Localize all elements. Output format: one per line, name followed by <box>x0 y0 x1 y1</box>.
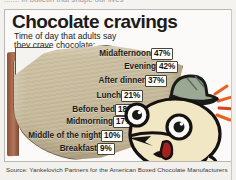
row-label: Midmorning <box>66 117 113 126</box>
clipped-top-text-strip: ....... in bulletin that shape our lives <box>0 0 236 9</box>
infographic-frame: Chocolate cravings Time of day that adul… <box>4 9 232 162</box>
table-row: Lunch 21% <box>5 91 121 103</box>
row-label: Lunch <box>96 91 121 100</box>
tongue-icon <box>161 141 172 159</box>
row-label: Breakfast <box>60 144 97 153</box>
impact-lines-icon <box>215 86 232 120</box>
table-row: Midmorning 17% <box>5 117 113 129</box>
row-value: 9% <box>97 143 115 155</box>
row-label: Midafternoon <box>99 49 151 58</box>
table-row: Breakfast 9% <box>5 144 97 156</box>
cartoon-face-icon <box>123 70 232 162</box>
row-label: Middle of the night <box>28 131 101 140</box>
table-row: Before bed 18% <box>5 105 115 117</box>
table-row: Midafternoon 47% <box>5 49 151 61</box>
clipped-top-text: ....... in bulletin that shape our lives <box>4 0 123 4</box>
row-value: 47% <box>151 48 173 60</box>
row-label: Before bed <box>72 105 115 114</box>
right-rule <box>231 9 232 180</box>
table-row: Middle of the night 10% <box>5 131 101 143</box>
source-credit: Source: Yankelovich Partners for the Ame… <box>6 166 228 173</box>
page-title: Chocolate cravings <box>12 12 177 31</box>
row-value: 10% <box>101 130 123 142</box>
